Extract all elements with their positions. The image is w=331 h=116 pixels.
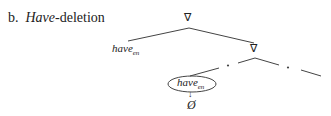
tree-lines <box>0 0 331 116</box>
null-symbol: Ø <box>187 98 196 113</box>
inner-node: ∇ <box>250 42 257 55</box>
root-node: ∇ <box>184 11 191 24</box>
left-leaf-label: haveen <box>112 42 139 57</box>
